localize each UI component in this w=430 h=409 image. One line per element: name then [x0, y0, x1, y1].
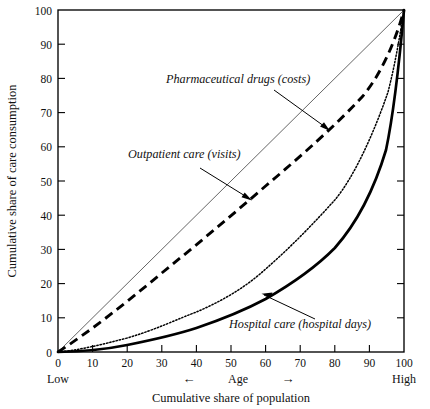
x-axis-low-label: Low — [47, 372, 69, 386]
annotation-outpatient-care: Outpatient care (visits) — [128, 147, 252, 201]
annotation-leader-pharmaceutical-drugs — [274, 90, 328, 129]
y-tick-label: 80 — [41, 73, 53, 85]
annotation-arrowhead-outpatient-care — [242, 193, 253, 201]
x-tick-label: 60 — [260, 357, 272, 369]
annotation-hospital-care: Hospital care (hospital days) — [228, 293, 371, 332]
x-tick-label: 80 — [329, 357, 341, 369]
y-tick-label: 90 — [41, 39, 53, 51]
x-tick-label: 20 — [121, 357, 133, 369]
annotation-leader-outpatient-care — [200, 168, 250, 199]
y-tick-label: 30 — [41, 244, 53, 256]
age-left-arrow-icon: ← — [183, 371, 196, 386]
x-axis-title: Cumulative share of population — [152, 391, 311, 405]
y-tick-label: 100 — [35, 5, 53, 17]
age-right-arrow-icon: → — [282, 371, 295, 386]
x-tick-label: 10 — [87, 357, 99, 369]
x-axis-high-label: High — [392, 372, 416, 386]
x-axis-endpoint-row: Low ← Age → High — [47, 371, 416, 386]
x-axis-tickmarks — [93, 345, 370, 352]
annotation-arrowhead-pharmaceutical-drugs — [320, 122, 330, 131]
x-tick-label: 100 — [395, 357, 413, 369]
annotation-label-hospital-care: Hospital care (hospital days) — [228, 317, 371, 331]
annotation-label-outpatient-care: Outpatient care (visits) — [128, 147, 241, 161]
x-axis-tick-labels: 0 10 20 30 40 50 60 70 80 90 100 — [55, 357, 413, 369]
x-tick-label: 50 — [225, 357, 237, 369]
x-tick-label: 40 — [191, 357, 203, 369]
lorenz-curve-chart: 100 90 80 70 60 50 40 30 20 10 0 — [0, 0, 430, 409]
y-axis-title: Cumulative share of care consumption — [5, 84, 19, 278]
y-tick-label: 40 — [41, 210, 53, 222]
y-tick-label: 0 — [46, 347, 52, 359]
y-tick-label: 60 — [41, 141, 53, 153]
x-tick-label: 0 — [55, 357, 61, 369]
annotation-label-pharmaceutical-drugs: Pharmaceutical drugs (costs) — [165, 72, 310, 86]
y-tick-label: 50 — [41, 176, 53, 188]
figure-container: 100 90 80 70 60 50 40 30 20 10 0 — [0, 0, 430, 409]
x-tick-label: 90 — [364, 357, 376, 369]
x-tick-label: 30 — [156, 357, 168, 369]
y-tick-label: 20 — [41, 278, 53, 290]
y-tick-label: 70 — [41, 107, 53, 119]
x-tick-label: 70 — [294, 357, 306, 369]
annotation-pharmaceutical-drugs: Pharmaceutical drugs (costs) — [165, 72, 330, 131]
y-axis-tick-labels: 100 90 80 70 60 50 40 30 20 10 0 — [35, 5, 53, 359]
right-axis-tickmarks — [397, 44, 404, 318]
annotation-leader-hospital-care — [264, 295, 315, 319]
y-axis-tickmarks — [58, 44, 65, 318]
equality-reference-line — [58, 10, 404, 352]
y-tick-label: 10 — [41, 312, 53, 324]
x-axis-age-label: Age — [228, 372, 248, 386]
